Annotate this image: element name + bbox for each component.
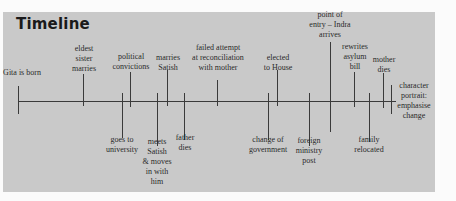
event-tick-eldest-sister-marries (83, 74, 84, 106)
event-label-gita-born: Gita is born (3, 68, 41, 78)
event-label-change-of-government: change of government (249, 135, 287, 155)
event-label-goes-to-university: goes to university (106, 135, 138, 155)
event-tick-goes-to-university (122, 93, 123, 138)
event-label-meets-satish: meets Satish & moves in with him (142, 137, 171, 187)
event-label-rewrites-asylum-bill: rewrites asylum bill (342, 42, 368, 72)
event-label-foreign-ministry-post: foreign ministry post (296, 136, 323, 166)
event-label-eldest-sister-marries: eldest sister marries (72, 44, 96, 74)
event-tick-mother-dies (383, 73, 384, 108)
timeline-title: Timeline (16, 15, 90, 33)
event-tick-marries-satish (167, 70, 168, 106)
timeline-panel (3, 12, 435, 192)
event-tick-gita-born (18, 86, 19, 114)
event-label-character-portrait: character portrait: emphasise change (397, 81, 430, 121)
event-tick-character-portrait (391, 85, 392, 114)
event-tick-elected-to-house (277, 70, 278, 106)
event-label-elected-to-house: elected to House (264, 53, 293, 73)
event-label-father-dies: father dies (176, 133, 195, 153)
event-label-mother-dies: mother dies (373, 55, 396, 75)
event-tick-failed-attempt (217, 80, 218, 106)
timeline-axis (18, 101, 396, 102)
event-tick-point-of-entry (330, 42, 331, 132)
event-tick-political-convictions (130, 72, 131, 107)
event-label-point-of-entry: point of entry – Indra arrives (309, 10, 350, 40)
event-label-failed-attempt: failed attempt at reconciliation with mo… (192, 43, 244, 73)
event-tick-rewrites-asylum-bill (354, 72, 355, 107)
event-label-family-relocated: family relocated (354, 135, 383, 155)
event-tick-change-of-government (268, 93, 269, 140)
event-label-political-convictions: political convictions (113, 52, 150, 72)
event-label-marries-satish: marries Satish (156, 53, 180, 73)
